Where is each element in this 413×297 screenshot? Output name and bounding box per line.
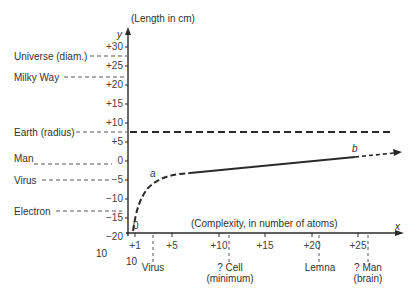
curve-solid	[190, 157, 355, 173]
x-tick-label: +5	[157, 240, 187, 251]
log-base-label: 10	[96, 248, 107, 259]
x-tick-label: +20	[297, 240, 327, 251]
x-tick-label: +25	[343, 240, 373, 251]
y-axis-symbol: y	[117, 29, 122, 40]
marker-man-brain: ? Man	[338, 262, 398, 273]
y-tick-label: +20	[97, 79, 123, 90]
x-tick-label: +1	[120, 240, 150, 251]
x-tick-label: +15	[250, 240, 280, 251]
curve-a	[133, 173, 190, 231]
y-tick-label: −5	[97, 174, 123, 185]
curve-b	[355, 153, 394, 157]
marker-man: Man	[14, 153, 33, 164]
curve-label-a: a	[150, 168, 156, 179]
marker-cell: ? Cell	[200, 262, 260, 273]
y-axis-arrow-icon	[125, 27, 131, 35]
y-axis-title: (Length in cm)	[131, 13, 195, 24]
marker-virus: Virus	[14, 175, 37, 186]
y-tick-label: −15	[97, 212, 123, 223]
y-tick-label: 0	[97, 155, 123, 166]
x-tick-label: +10	[204, 240, 234, 251]
y-tick-label: +30	[97, 41, 123, 52]
curve-label-b: b	[352, 143, 358, 154]
x-axis-symbol: x	[395, 221, 400, 232]
y-tick-label: +10	[97, 117, 123, 128]
x-axis-title: (Complexity, in number of atoms)	[191, 218, 338, 229]
marker-milky-way: Milky Way	[14, 72, 59, 83]
marker-electron: Electron	[14, 206, 51, 217]
y-tick-label: −10	[97, 193, 123, 204]
curve-arrow-icon	[393, 149, 402, 156]
marker-cell-sub: (minimum)	[200, 273, 260, 284]
marker-virus-x: Virus	[123, 262, 183, 273]
marker-man-brain-sub: (brain)	[338, 273, 398, 284]
y-tick-label: +15	[97, 98, 123, 109]
marker-universe: Universe (diam.)	[14, 51, 87, 62]
origin-label: 0	[133, 220, 139, 231]
y-tick-label: +25	[97, 60, 123, 71]
y-tick-label: +5	[97, 136, 123, 147]
marker-earth: Earth (radius)	[14, 127, 75, 138]
